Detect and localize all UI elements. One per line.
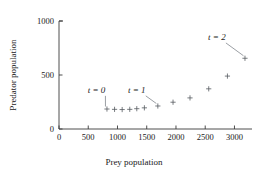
data-point-marker: [104, 106, 109, 111]
annotation-leader-lines: [105, 43, 243, 107]
data-point-marker: [120, 107, 125, 112]
data-markers: [104, 56, 247, 113]
x-tick-label: 1500: [138, 132, 155, 142]
annotation-label: t = 2: [208, 32, 226, 42]
x-tick-label: 0: [57, 132, 61, 142]
x-tick-label: 3000: [226, 132, 243, 142]
x-tick-label: 500: [82, 132, 95, 142]
y-tick-labels: 05001000: [37, 16, 54, 134]
predator-prey-phase-plot: 050010001500200025003000 05001000 t = 0t…: [0, 0, 263, 171]
data-point-marker: [142, 105, 147, 110]
x-tick-label: 2500: [197, 132, 214, 142]
annotation-labels: t = 0t = 1t = 2: [88, 32, 227, 95]
data-point-marker: [187, 95, 192, 100]
data-point-marker: [225, 73, 230, 78]
data-point-marker: [170, 100, 175, 105]
x-tick-label: 2000: [167, 132, 184, 142]
data-point-marker: [134, 106, 139, 111]
annotation-label: t = 0: [88, 85, 106, 95]
data-point-marker: [155, 103, 160, 108]
data-point-marker: [127, 107, 132, 112]
x-tick-label: 1000: [109, 132, 126, 142]
chart-canvas: 050010001500200025003000 05001000 t = 0t…: [0, 0, 263, 171]
data-point-marker: [112, 107, 117, 112]
y-tick-label: 0: [50, 124, 54, 134]
y-axis-title: Predator population: [8, 39, 18, 111]
y-tick-label: 1000: [37, 16, 54, 26]
data-point-marker: [206, 86, 211, 91]
y-tick-label: 500: [41, 70, 54, 80]
annotation-leader-line: [146, 96, 157, 104]
annotation-leader-line: [226, 43, 244, 56]
data-point-marker: [242, 56, 247, 61]
x-tick-labels: 050010001500200025003000: [57, 132, 243, 142]
x-axis-title: Prey population: [105, 157, 163, 167]
annotation-label: t = 1: [128, 85, 146, 95]
